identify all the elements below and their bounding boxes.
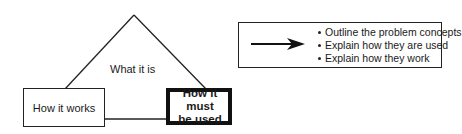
how-it-must-be-used-box: How it must be used: [166, 88, 232, 125]
triangle-outline: [65, 15, 206, 89]
be-used-label: be used: [172, 113, 228, 126]
bullet-icon: [318, 31, 321, 34]
legend-list: Outline the problem concepts Explain how…: [318, 26, 462, 65]
how-it-works-box: How it works: [23, 88, 105, 127]
what-it-is-label: What it is: [110, 63, 155, 75]
bullet-icon: [318, 57, 321, 60]
how-it-works-label: How it works: [33, 102, 95, 114]
legend-item: Explain how they are used: [318, 39, 462, 52]
legend-item: Explain how they work: [318, 52, 462, 65]
right-arrow-icon: [251, 38, 305, 50]
how-it-must-label: How it must: [172, 87, 228, 113]
legend-box: Outline the problem concepts Explain how…: [238, 22, 442, 68]
bullet-icon: [318, 44, 321, 47]
legend-item: Outline the problem concepts: [318, 26, 462, 39]
